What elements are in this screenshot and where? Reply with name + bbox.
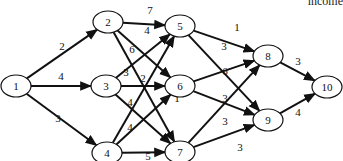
edge-1-4 <box>27 94 97 145</box>
node-2: 2 <box>93 11 123 33</box>
node-8: 8 <box>253 45 283 67</box>
node-label: 2 <box>105 16 111 28</box>
node-3: 3 <box>91 75 121 97</box>
edge-weight-8-10: 3 <box>295 55 301 67</box>
edge-weight-1-4: 3 <box>55 112 61 124</box>
node-6: 6 <box>165 75 195 97</box>
node-label: 5 <box>177 20 183 32</box>
edge-weight-2-5: 7 <box>147 4 153 16</box>
node-9: 9 <box>253 109 283 131</box>
edge-weight-6-9: 3 <box>222 92 228 104</box>
node-label: 10 <box>322 81 334 93</box>
node-label: 4 <box>104 147 110 159</box>
edge-4-7 <box>122 152 165 153</box>
node-5: 5 <box>165 15 195 37</box>
edge-weight-1-3: 4 <box>58 70 64 82</box>
node-label: 3 <box>103 80 109 92</box>
edge-weight-4-7: 5 <box>145 150 151 161</box>
edge-weight-5-8: 1 <box>234 21 240 33</box>
edge-weight-3-6: 2 <box>140 72 146 84</box>
edge-weight-3-7: 4 <box>127 96 133 108</box>
edge-weight-4-5: 4 <box>127 121 133 133</box>
network-diagram: 24374632441513633334 12345678910 income <box>0 0 343 161</box>
caption-text: income <box>308 0 343 9</box>
edge-weight-1-2: 2 <box>59 40 65 52</box>
edge-weight-7-9: 3 <box>237 141 243 153</box>
edge-weight-5-9: 3 <box>221 40 227 52</box>
node-label: 7 <box>177 146 183 158</box>
edge-weight-2-6: 4 <box>144 24 150 36</box>
edge-weight-9-10: 4 <box>295 106 301 118</box>
node-label: 9 <box>265 114 271 126</box>
graph-svg: 24374632441513633334 12345678910 <box>0 0 343 161</box>
edge-weight-7-8: 3 <box>222 115 228 127</box>
node-label: 6 <box>177 80 183 92</box>
node-4: 4 <box>92 142 122 161</box>
node-label: 1 <box>13 80 19 92</box>
node-1: 1 <box>1 75 31 97</box>
edge-weight-6-8: 6 <box>222 65 228 77</box>
edge-weight-3-5: 3 <box>123 66 129 78</box>
edge-weight-2-7: 6 <box>129 43 135 55</box>
node-7: 7 <box>165 141 195 161</box>
node-10: 10 <box>312 76 342 98</box>
node-label: 8 <box>265 50 271 62</box>
